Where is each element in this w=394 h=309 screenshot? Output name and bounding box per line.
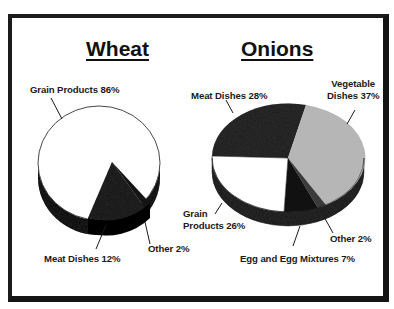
wheat-title: Wheat [86, 37, 149, 61]
onions-label-grain-line1: Grain [183, 208, 245, 220]
wheat-leader-grain [51, 98, 62, 119]
onions-label-vegetable-dishes: Vegetable Dishes 37% [327, 78, 379, 102]
onions-slice-grain-products [212, 156, 288, 212]
wheat-label-other: Other 2% [148, 243, 189, 255]
onions-label-meat-dishes: Meat Dishes 28% [191, 90, 267, 102]
onions-label-grain-products: Grain Products 26% [183, 208, 245, 232]
chart-figure: Wheat Onions Grain Products 86% Meat Dis… [0, 0, 394, 309]
onions-label-other: Other 2% [330, 233, 371, 245]
wheat-leader-other [145, 222, 150, 244]
wheat-pie [38, 98, 160, 249]
onions-leader-egg [293, 226, 300, 246]
wheat-label-meat-dishes: Meat Dishes 12% [44, 253, 120, 265]
onions-title: Onions [241, 37, 313, 61]
onions-leader-veg [347, 110, 355, 124]
onions-label-grain-line2: Products 26% [183, 220, 245, 232]
onions-label-egg-mixtures: Egg and Egg Mixtures 7% [240, 253, 355, 265]
wheat-label-grain-products: Grain Products 86% [30, 84, 119, 96]
onions-label-veg-line2: Dishes 37% [327, 90, 379, 102]
onions-label-veg-line1: Vegetable [327, 78, 379, 90]
